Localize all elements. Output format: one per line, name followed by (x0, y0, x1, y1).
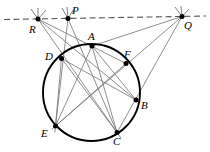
point-marker-f[interactable] (124, 61, 129, 66)
point-marker-b[interactable] (134, 98, 139, 103)
chord-de (56, 59, 62, 127)
secant-q-a-f (92, 17, 182, 47)
tick-marks-group (31, 6, 189, 19)
secant-q-b-c (117, 17, 182, 133)
point-label-a: A (88, 31, 95, 42)
point-label-p: P (72, 5, 79, 16)
point-marker-a[interactable] (90, 44, 95, 49)
point-label-f: F (124, 49, 131, 60)
point-marker-e[interactable] (53, 124, 58, 129)
chord-ac (92, 46, 117, 133)
point-label-c: C (113, 136, 120, 147)
point-label-q: Q (184, 20, 192, 31)
point-marker-p[interactable] (66, 16, 71, 21)
point-label-b: B (141, 100, 148, 111)
point-label-d: D (45, 51, 53, 62)
point-label-r: R (29, 24, 36, 35)
point-marker-d[interactable] (59, 56, 64, 61)
point-label-e: E (41, 128, 48, 139)
point-marker-r[interactable] (36, 17, 41, 22)
chord-ef (56, 64, 127, 127)
geometry-figure: ABCDEFPQR (0, 0, 210, 152)
